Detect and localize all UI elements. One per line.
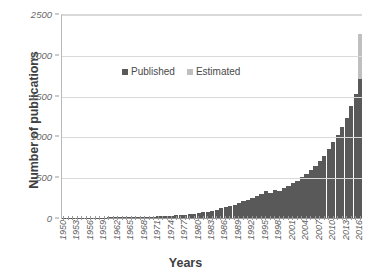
- gridline: [62, 97, 362, 98]
- x-tick-mark: [131, 216, 132, 220]
- x-tick-mark: [315, 216, 316, 220]
- x-axis-tick-labels: 1950195319561959196219651968197119741977…: [61, 220, 362, 254]
- x-tick-mark: [86, 216, 87, 220]
- y-axis-tick-labels: 05001000150020002500: [0, 0, 59, 219]
- x-tick-label: 1971: [153, 220, 162, 240]
- x-tick-label: 2004: [301, 220, 310, 240]
- x-tick-mark: [283, 216, 284, 220]
- x-tick-mark: [270, 216, 271, 220]
- legend-swatch-estimated: [187, 69, 193, 75]
- x-tick-mark: [324, 216, 325, 220]
- x-tick-mark: [149, 216, 150, 220]
- y-tick-label: 500: [36, 172, 52, 183]
- bar-2016: [358, 14, 362, 218]
- x-tick-mark: [77, 216, 78, 220]
- x-tick-mark: [252, 216, 253, 220]
- x-tick-mark: [171, 216, 172, 220]
- y-tick-label: 1500: [31, 90, 52, 101]
- gridline: [62, 56, 362, 57]
- x-tick-label: 1980: [194, 220, 203, 240]
- x-tick-mark: [158, 216, 159, 220]
- x-tick-mark: [234, 216, 235, 220]
- x-tick-mark: [346, 216, 347, 220]
- x-tick-mark: [301, 216, 302, 220]
- y-tick-mark: [55, 14, 59, 15]
- legend-label-published: Published: [131, 66, 175, 77]
- x-tick-mark: [333, 216, 334, 220]
- x-tick-mark: [337, 216, 338, 220]
- x-tick-mark: [225, 216, 226, 220]
- x-tick-mark: [126, 216, 127, 220]
- x-tick-mark: [207, 216, 208, 220]
- x-tick-mark: [261, 216, 262, 220]
- x-tick-mark: [81, 216, 82, 220]
- x-tick-mark: [198, 216, 199, 220]
- x-tick-mark: [279, 216, 280, 220]
- y-tick-mark: [55, 218, 59, 219]
- y-tick-mark: [55, 177, 59, 178]
- x-tick-mark: [72, 216, 73, 220]
- x-tick-mark: [180, 216, 181, 220]
- gridline: [62, 15, 362, 16]
- x-tick-mark: [360, 216, 361, 220]
- x-tick-label: 1965: [126, 220, 135, 240]
- x-tick-mark: [288, 216, 289, 220]
- x-tick-mark: [265, 216, 266, 220]
- legend-label-estimated: Estimated: [196, 66, 240, 77]
- x-tick-mark: [355, 216, 356, 220]
- bar-segment-published: [358, 79, 362, 218]
- x-tick-mark: [68, 216, 69, 220]
- x-tick-label: 1983: [207, 220, 216, 240]
- x-tick-mark: [328, 216, 329, 220]
- legend-swatch-published: [122, 69, 128, 75]
- x-tick-label: 1968: [140, 220, 149, 240]
- legend-item-published: Published: [122, 66, 175, 77]
- x-tick-mark: [194, 216, 195, 220]
- x-tick-label: 1974: [167, 220, 176, 240]
- x-tick-mark: [176, 216, 177, 220]
- x-tick-label: 1986: [220, 220, 229, 240]
- x-tick-mark: [238, 216, 239, 220]
- x-tick-label: 1977: [180, 220, 189, 240]
- x-tick-mark: [99, 216, 100, 220]
- gridline: [62, 178, 362, 179]
- x-tick-label: 2013: [342, 220, 351, 240]
- x-tick-mark: [216, 216, 217, 220]
- x-tick-label: 1998: [274, 220, 283, 240]
- x-tick-mark: [310, 216, 311, 220]
- x-tick-mark: [229, 216, 230, 220]
- x-tick-label: 2001: [288, 220, 297, 240]
- x-tick-mark: [135, 216, 136, 220]
- x-tick-mark: [203, 216, 204, 220]
- x-tick-mark: [274, 216, 275, 220]
- x-tick-label: 2010: [328, 220, 337, 240]
- plot-area: [61, 14, 362, 219]
- x-tick-label: 1962: [113, 220, 122, 240]
- x-tick-mark: [144, 216, 145, 220]
- y-tick-mark: [55, 54, 59, 55]
- x-tick-label: 1989: [234, 220, 243, 240]
- x-tick-mark: [256, 216, 257, 220]
- publications-bar-chart: Number of publications 05001000150020002…: [0, 0, 371, 278]
- x-tick-mark: [247, 216, 248, 220]
- x-tick-mark: [167, 216, 168, 220]
- x-tick-mark: [351, 216, 352, 220]
- x-tick-mark: [63, 216, 64, 220]
- x-tick-mark: [162, 216, 163, 220]
- x-tick-label: 1992: [247, 220, 256, 240]
- x-tick-mark: [189, 216, 190, 220]
- x-tick-mark: [306, 216, 307, 220]
- bar-segment-estimated: [358, 34, 362, 79]
- x-tick-mark: [104, 216, 105, 220]
- x-tick-mark: [342, 216, 343, 220]
- legend-item-estimated: Estimated: [187, 66, 240, 77]
- x-tick-mark: [90, 216, 91, 220]
- x-tick-label: 1956: [86, 220, 95, 240]
- x-axis-title: Years: [0, 256, 371, 270]
- x-tick-label: 2007: [315, 220, 324, 240]
- x-tick-label: 1950: [59, 220, 68, 240]
- x-tick-mark: [140, 216, 141, 220]
- x-tick-mark: [153, 216, 154, 220]
- y-tick-label: 1000: [31, 131, 52, 142]
- x-tick-mark: [297, 216, 298, 220]
